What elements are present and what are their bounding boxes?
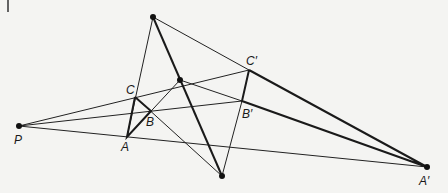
axis-X-Y-Z — [153, 17, 222, 176]
label-A: A — [120, 140, 129, 154]
label-Aprime: A′ — [418, 174, 430, 188]
point-Z — [219, 173, 225, 179]
label-C: C — [126, 83, 135, 97]
desargues-diagram: P A B C A′ B′ C′ — [0, 0, 448, 193]
triangle-AprimeBprimeCprime — [242, 70, 427, 167]
point-P — [16, 123, 22, 129]
ray-P-A-Aprime — [19, 126, 427, 167]
label-Bprime: B′ — [242, 107, 253, 121]
line-Z-Bprime — [222, 101, 242, 176]
point-X — [150, 14, 156, 20]
point-Aprime — [424, 164, 430, 170]
line-Y-Bprime — [180, 80, 242, 101]
label-Cprime: C′ — [246, 54, 258, 68]
label-P: P — [14, 133, 22, 147]
label-B: B — [146, 115, 154, 129]
point-Y — [177, 77, 183, 83]
line-X-Cprime — [153, 17, 249, 70]
